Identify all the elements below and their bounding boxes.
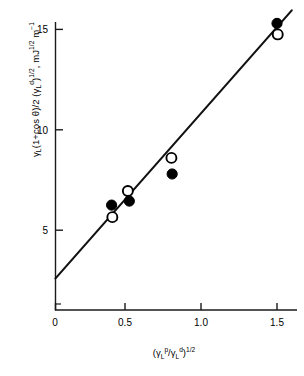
y-label-mid: (1+cos θ)/2 (: [30, 93, 41, 148]
y-label-gamma2: γ: [30, 89, 41, 94]
chart-figure: γL(1+cos θ)/2 (γLd)1/2, mJ1/2 m−1 15 10 …: [0, 0, 304, 376]
y-label-sup-half2: 1/2: [28, 41, 35, 50]
y-label-sub-L: L: [35, 148, 42, 152]
x-label-sub-L2: L: [175, 353, 179, 360]
y-tick-label-5: 5: [42, 225, 48, 236]
x-tick-label-1.5: 1.5: [270, 317, 284, 328]
y-axis-ticks: [56, 29, 64, 304]
data-point-open: [123, 186, 133, 196]
data-point-filled: [107, 200, 117, 210]
plot-area: 15 10 5 0 0.5 1.0 1.5: [0, 0, 304, 376]
y-label-sup-minus1: −1: [28, 22, 35, 30]
data-point-filled: [167, 169, 177, 179]
y-label-close-paren: ): [30, 78, 41, 81]
y-label-gamma: γ: [30, 152, 41, 157]
x-tick-label-0: 0: [52, 317, 58, 328]
y-label-sub-L2: L: [35, 85, 42, 89]
data-point-filled: [272, 18, 282, 28]
data-point-open: [273, 29, 283, 39]
regression-line: [56, 10, 292, 278]
y-axis-label: γL(1+cos θ)/2 (γLd)1/2, mJ1/2 m−1: [30, 0, 41, 205]
x-label-sup-half: 1/2: [186, 346, 195, 353]
y-label-sup-half: 1/2: [28, 68, 35, 77]
y-label-units: , mJ: [30, 50, 41, 68]
y-label-sup-d: d: [28, 81, 35, 85]
x-axis-ticks: [56, 303, 278, 310]
data-point-open: [166, 153, 176, 163]
x-tick-label-1.0: 1.0: [194, 317, 208, 328]
y-label-meter: m: [30, 30, 41, 41]
x-label-sub-L1: L: [161, 353, 165, 360]
x-tick-label-0.5: 0.5: [118, 317, 132, 328]
x-axis-label: (γLp/γLd)1/2: [0, 347, 304, 358]
data-point-open: [107, 212, 117, 222]
data-point-filled: [124, 196, 134, 206]
